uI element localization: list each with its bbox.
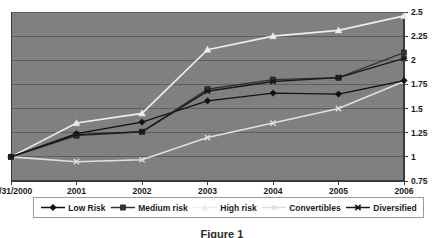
data-point-marker (121, 205, 126, 210)
y-axis-tick-label: 2.25 (411, 31, 428, 41)
legend-label: Low Risk (68, 203, 105, 213)
y-axis-tick-label: 1.25 (411, 128, 428, 138)
y-axis-tick-label: 2 (411, 55, 416, 65)
legend-item-convertibles[interactable]: Convertibles (261, 202, 341, 213)
x-axis-tick-label: 2006 (364, 186, 444, 196)
legend-label: Medium risk (138, 203, 188, 213)
data-point-marker (355, 205, 361, 210)
legend-label: High risk (220, 203, 256, 213)
legend-item-high-risk[interactable]: High risk (192, 202, 256, 213)
legend-marker-star-icon (345, 202, 371, 213)
data-point-marker (50, 204, 56, 210)
plot-area-background (11, 12, 404, 181)
y-axis-tick-label: 1.5 (411, 104, 423, 114)
y-axis-tick-label: 0.75 (411, 176, 428, 186)
legend-label: Convertibles (289, 203, 341, 213)
legend-item-diversified[interactable]: Diversified (345, 202, 416, 213)
figure-caption: Figure 1 (0, 228, 444, 238)
legend-marker-square-icon (110, 202, 136, 213)
y-axis-tick-label: 2.5 (411, 7, 423, 17)
legend-item-medium-risk[interactable]: Medium risk (110, 202, 188, 213)
data-point-marker (401, 50, 406, 55)
y-axis-tick-label: 1 (411, 152, 416, 162)
chart-container: Low RiskMedium riskHigh riskConvertibles… (0, 0, 444, 238)
legend-marker-diamond-icon (40, 202, 66, 213)
legend-marker-x-icon (261, 202, 287, 213)
chart-legend: Low RiskMedium riskHigh riskConvertibles… (33, 197, 424, 218)
legend-label: Diversified (373, 203, 416, 213)
legend-marker-triangle-icon (192, 202, 218, 213)
y-axis-tick-label: 1.75 (411, 79, 428, 89)
legend-item-low-risk[interactable]: Low Risk (40, 202, 105, 213)
